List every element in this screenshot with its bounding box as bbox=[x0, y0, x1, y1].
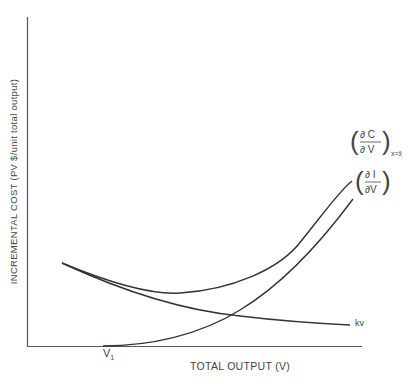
curve-kv bbox=[62, 263, 350, 325]
svg-text:(: ( bbox=[355, 166, 364, 196]
kv-label: kv bbox=[355, 318, 364, 328]
y-axis-label: INCREMENTAL COST (PV $/unit total output… bbox=[8, 22, 19, 342]
v1-subscript: 1 bbox=[110, 354, 114, 361]
curve-dc-dv bbox=[62, 181, 352, 293]
svg-text:∂ C: ∂ C bbox=[360, 129, 375, 140]
x-axis-label: TOTAL OUTPUT (V) bbox=[120, 360, 360, 372]
chart-canvas: ( ∂ C ∂ V ) x=x̄ ( ∂ I ∂V ) bbox=[0, 0, 414, 386]
svg-text:(: ( bbox=[350, 126, 359, 156]
svg-text:): ) bbox=[382, 126, 391, 156]
svg-text:∂V: ∂V bbox=[365, 184, 377, 195]
svg-text:x=x̄: x=x̄ bbox=[391, 150, 403, 157]
svg-text:∂ V: ∂ V bbox=[360, 144, 375, 155]
x-tick-v1: V1 bbox=[103, 347, 114, 361]
curve-di-dv bbox=[103, 199, 353, 346]
label-di-dv: ( ∂ I ∂V ) bbox=[355, 166, 391, 196]
svg-text:∂ I: ∂ I bbox=[365, 169, 376, 180]
svg-text:): ) bbox=[382, 166, 391, 196]
label-dc-dv: ( ∂ C ∂ V ) x=x̄ bbox=[350, 126, 403, 157]
